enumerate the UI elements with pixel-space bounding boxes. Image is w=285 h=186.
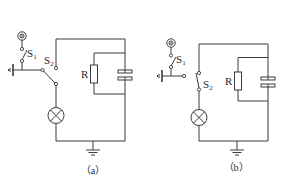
s1-label: S1 (176, 53, 186, 67)
ground-icon (86, 141, 100, 155)
caption-b: （b） (224, 162, 249, 173)
s2-label: S2 (203, 78, 213, 92)
switch-s2-icon (41, 66, 58, 85)
ground-icon (230, 141, 244, 155)
open-terminal-icon (182, 74, 185, 77)
power-source-icon (18, 32, 26, 40)
circuit-diagram: S1 S2 R (0, 0, 285, 186)
lamp-icon (191, 110, 207, 126)
circuit-a: S1 S2 R (9, 32, 133, 176)
switch-s2-icon (196, 44, 201, 91)
switch-s1-icon (169, 54, 176, 69)
lamp-icon (48, 108, 64, 124)
s2-label: S2 (44, 54, 54, 68)
resistor-icon (235, 72, 242, 90)
ground-terminal-icon (9, 64, 14, 76)
caption-a: （a） (81, 165, 105, 176)
resistor-icon (91, 65, 98, 83)
circuit-b: S1 S2 R (158, 39, 276, 173)
ground-terminal-icon (158, 70, 163, 82)
resistor-label: R (225, 75, 233, 87)
switch-s1-icon (20, 47, 27, 62)
s1-label: S1 (27, 47, 37, 61)
power-source-icon (167, 39, 175, 47)
resistor-label: R (81, 68, 89, 80)
